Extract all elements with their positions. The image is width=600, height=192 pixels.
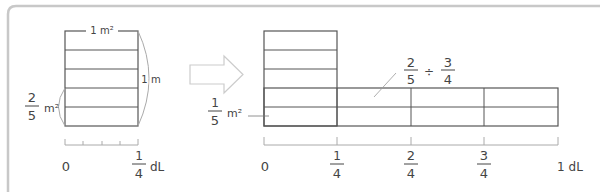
svg-text:4: 4 [407, 166, 415, 181]
expression-leader [374, 73, 396, 97]
svg-text:÷: ÷ [424, 65, 434, 79]
svg-text:2: 2 [407, 148, 415, 163]
side-length-label: 1 m [141, 74, 160, 85]
left-axis-start: 0 [62, 159, 70, 174]
svg-text:1: 1 [333, 149, 341, 163]
svg-text:4: 4 [135, 166, 143, 181]
right-column-1 [264, 31, 337, 126]
svg-text:m²: m² [227, 107, 242, 120]
diagram-canvas: 1 m² 1 m 2 5 m² 0 1 4 dL [0, 0, 600, 192]
svg-text:3: 3 [444, 55, 452, 70]
left-brace [59, 88, 66, 126]
svg-text:3: 3 [480, 148, 488, 163]
right-axis-1-4: 1 4 [330, 149, 344, 181]
right-arrow-icon [190, 56, 243, 93]
left-diagram: 1 m² 1 m 2 5 m² 0 1 4 dL [25, 25, 165, 181]
left-fraction-label: 2 5 m² [25, 90, 59, 123]
svg-text:5: 5 [407, 72, 415, 87]
top-area-label: 1 m² [90, 25, 113, 36]
svg-text:4: 4 [333, 166, 341, 181]
svg-text:5: 5 [211, 113, 219, 128]
left-axis [65, 139, 138, 145]
svg-text:2: 2 [407, 55, 415, 70]
svg-text:4: 4 [444, 72, 452, 87]
right-axis [264, 137, 558, 145]
right-axis-0: 0 [261, 159, 269, 174]
right-axis-2-4: 2 4 [404, 148, 418, 181]
left-square [65, 31, 138, 126]
svg-text:4: 4 [480, 166, 488, 181]
right-fraction-label: 1 5 m² [208, 96, 269, 128]
left-axis-end-label: 1 4 dL [132, 149, 165, 181]
division-expression: 2 5 ÷ 3 4 [404, 55, 455, 87]
svg-text:1: 1 [211, 96, 219, 110]
svg-text:5: 5 [28, 108, 36, 123]
svg-text:dL: dL [150, 160, 165, 174]
svg-text:2: 2 [28, 90, 36, 105]
svg-text:1: 1 [135, 149, 143, 163]
right-axis-end: 1 dL [557, 160, 583, 174]
svg-text:m²: m² [44, 102, 59, 115]
right-axis-3-4: 3 4 [477, 148, 491, 181]
